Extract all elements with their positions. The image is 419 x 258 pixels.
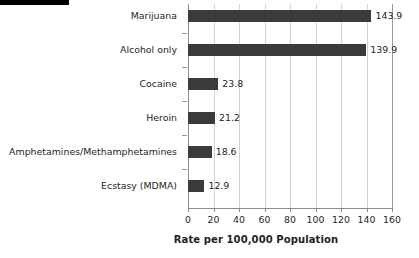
x-tick-0 [188, 208, 189, 212]
gridline-140 [367, 4, 368, 208]
bar [188, 146, 212, 158]
y-tick [182, 101, 187, 102]
page-top-rule [0, 0, 69, 5]
value-label: 139.9 [370, 44, 397, 56]
x-tick-140 [367, 208, 368, 212]
value-label: 23.8 [222, 78, 243, 90]
gridline-80 [290, 4, 291, 208]
category-label: Ecstasy (MDMA) [0, 180, 182, 192]
bar [188, 10, 371, 22]
gridline-120 [341, 4, 342, 208]
x-tick-100 [316, 208, 317, 212]
category-label: Heroin [0, 112, 182, 124]
category-label: Amphetamines/Methamphetamines [0, 146, 182, 158]
category-label: Alcohol only [0, 44, 182, 56]
y-tick [182, 67, 187, 68]
category-label: Marijuana [0, 10, 182, 22]
y-tick [182, 33, 187, 34]
y-tick [182, 135, 187, 136]
x-axis-title: Rate per 100,000 Population [0, 234, 419, 245]
bar [188, 78, 218, 90]
category-label: Cocaine [0, 78, 182, 90]
x-tick-80 [290, 208, 291, 212]
bar [188, 180, 204, 192]
value-label: 21.2 [219, 112, 240, 124]
gridline-40 [239, 4, 240, 208]
y-tick [182, 169, 187, 170]
value-label: 143.9 [375, 10, 402, 22]
plot-area [188, 4, 392, 208]
x-tick-120 [341, 208, 342, 212]
gridline-100 [316, 4, 317, 208]
x-tick-label-160: 160 [372, 214, 412, 226]
value-label: 12.9 [208, 180, 229, 192]
gridline-60 [265, 4, 266, 208]
x-tick-20 [214, 208, 215, 212]
gridline-160 [392, 4, 393, 208]
x-tick-40 [239, 208, 240, 212]
x-axis-title-text: Rate per 100,000 Population [174, 234, 338, 245]
bar [188, 112, 215, 124]
x-tick-60 [265, 208, 266, 212]
bar-chart: MarijuanaAlcohol onlyCocaineHeroinAmphet… [0, 0, 419, 258]
gridline-20 [214, 4, 215, 208]
bar [188, 44, 366, 56]
x-tick-160 [392, 208, 393, 212]
gridline-0 [188, 4, 189, 208]
value-label: 18.6 [216, 146, 237, 158]
